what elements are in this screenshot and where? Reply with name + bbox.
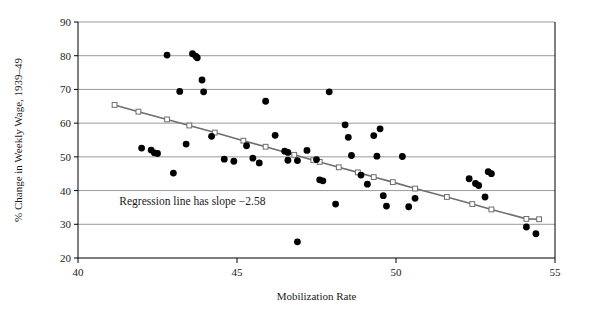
y-tick-label-70: 70	[60, 83, 72, 95]
data-point	[194, 54, 201, 61]
data-point	[230, 158, 237, 165]
regression-marker	[371, 175, 376, 180]
data-point	[250, 155, 257, 162]
data-point	[332, 201, 339, 208]
x-tick-label-50: 50	[391, 266, 403, 278]
data-point	[176, 88, 183, 95]
data-point	[475, 182, 482, 189]
data-point	[294, 157, 301, 164]
data-point	[364, 181, 371, 188]
x-axis-title: Mobilization Rate	[277, 290, 357, 302]
regression-marker	[444, 195, 449, 200]
data-point	[326, 88, 333, 95]
data-point	[374, 153, 381, 160]
data-point	[319, 177, 326, 184]
regression-marker	[537, 217, 542, 222]
data-point	[170, 170, 177, 177]
data-point	[199, 77, 206, 84]
x-tick-label-45: 45	[232, 266, 244, 278]
data-point	[482, 194, 489, 201]
data-point	[138, 145, 145, 152]
data-point	[488, 170, 495, 177]
data-point	[342, 121, 349, 128]
regression-marker	[390, 180, 395, 185]
data-point	[200, 88, 207, 95]
regression-marker	[136, 109, 141, 114]
data-point	[154, 150, 161, 157]
data-point	[262, 98, 269, 105]
data-point	[412, 195, 419, 202]
data-point	[304, 147, 311, 154]
x-tick-label-40: 40	[73, 266, 85, 278]
y-tick-label-30: 30	[60, 218, 72, 230]
regression-marker	[292, 152, 297, 157]
regression-marker	[489, 207, 494, 212]
regression-marker	[241, 138, 246, 143]
data-point	[399, 153, 406, 160]
data-point	[345, 134, 352, 141]
regression-marker	[470, 202, 475, 207]
data-point	[370, 132, 377, 139]
y-tick-label-40: 40	[60, 185, 72, 197]
data-point	[164, 52, 171, 59]
data-point	[380, 192, 387, 199]
data-point	[533, 230, 540, 237]
regression-marker	[187, 123, 192, 128]
y-tick-label-80: 80	[60, 50, 72, 62]
data-point	[208, 133, 215, 140]
data-point	[243, 142, 250, 149]
y-axis-title: % Change in Weekly Wage, 1939–49	[12, 57, 24, 222]
data-point	[348, 152, 355, 159]
regression-marker	[524, 216, 529, 221]
regression-marker	[165, 117, 170, 122]
data-point	[221, 156, 228, 163]
data-point	[377, 125, 384, 132]
data-point	[284, 149, 291, 156]
data-point	[523, 224, 530, 231]
data-point	[358, 172, 365, 179]
data-point	[272, 132, 279, 139]
y-tick-label-60: 60	[60, 117, 72, 129]
data-point	[383, 203, 390, 210]
x-tick-label-55: 55	[550, 266, 562, 278]
data-point	[466, 175, 473, 182]
regression-marker	[263, 144, 268, 149]
regression-marker	[413, 186, 418, 191]
scatter-plot: 203040506070809040455055Mobilization Rat…	[0, 0, 610, 314]
data-point	[183, 141, 190, 148]
data-point	[294, 238, 301, 245]
data-point	[405, 203, 412, 210]
data-point	[284, 157, 291, 164]
annotation-slope: Regression line has slope −2.58	[119, 195, 265, 208]
regression-marker	[336, 165, 341, 170]
figure-container: 203040506070809040455055Mobilization Rat…	[0, 0, 610, 314]
y-tick-label-90: 90	[60, 16, 72, 28]
data-point	[313, 156, 320, 163]
data-point	[256, 160, 263, 167]
regression-marker	[112, 103, 117, 108]
y-tick-label-50: 50	[60, 151, 72, 163]
y-tick-label-20: 20	[60, 252, 72, 264]
